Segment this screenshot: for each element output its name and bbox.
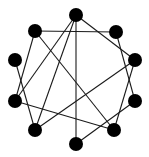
node-n6 [28, 123, 42, 137]
node-n7 [8, 94, 22, 108]
edge-n0-n2 [76, 15, 135, 60]
node-n2 [128, 53, 142, 67]
edge-n9-n4 [35, 31, 114, 130]
node-n0 [69, 8, 83, 22]
node-layer [8, 8, 142, 151]
node-n5 [69, 137, 83, 151]
edge-n3-n5 [76, 101, 135, 144]
node-n1 [109, 25, 123, 39]
edge-n2-n6 [35, 60, 135, 130]
node-n8 [8, 53, 22, 67]
node-n9 [28, 24, 42, 38]
node-n3 [128, 94, 142, 108]
graph-diagram [0, 0, 149, 157]
edge-n0-n7 [15, 15, 76, 101]
node-n4 [107, 123, 121, 137]
